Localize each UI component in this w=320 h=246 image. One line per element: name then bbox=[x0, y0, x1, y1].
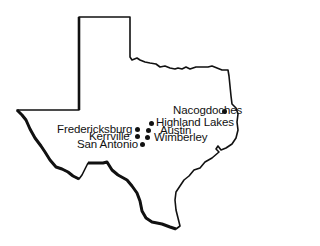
city-dot-austin bbox=[146, 128, 151, 133]
city-dot-fredericksburg bbox=[135, 127, 140, 132]
city-dot-highland-lakes bbox=[149, 121, 154, 126]
city-label-wimberley: Wimberley bbox=[154, 131, 207, 143]
city-label-nacogdoches: Nacogdoches bbox=[173, 104, 242, 116]
city-dot-wimberley bbox=[145, 135, 150, 140]
city-dot-san-antonio bbox=[140, 142, 145, 147]
city-label-san-antonio: San Antonio bbox=[77, 138, 138, 150]
